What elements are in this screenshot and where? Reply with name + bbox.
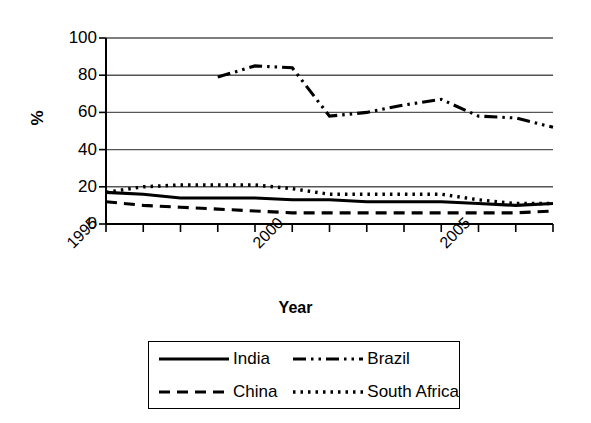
series-line-india (106, 192, 553, 205)
legend-line-sample-dashed (157, 385, 231, 399)
legend: IndiaBrazilChinaSouth Africa (148, 341, 460, 409)
y-tick-label-80: 80 (37, 66, 97, 83)
y-tick-label-20: 20 (37, 178, 97, 195)
legend-item-china[interactable]: China (149, 383, 283, 401)
y-tick-label-40: 40 (37, 141, 97, 158)
y-tick-label-60: 60 (37, 103, 97, 120)
y-tick-label-100: 100 (37, 29, 97, 46)
legend-item-south-africa[interactable]: South Africa (283, 383, 459, 401)
x-axis-title: Year (0, 299, 591, 317)
legend-item-brazil[interactable]: Brazil (283, 350, 459, 368)
legend-label: India (231, 350, 270, 368)
legend-label: South Africa (365, 383, 459, 401)
line-chart: % Year 020406080100 199520002005 IndiaBr… (0, 0, 591, 423)
legend-line-sample-dash-dot-dot (291, 352, 365, 366)
legend-item-india[interactable]: India (149, 350, 283, 368)
legend-line-sample-solid (157, 352, 231, 366)
legend-label: Brazil (365, 350, 410, 368)
legend-line-sample-dotted (291, 385, 365, 399)
legend-label: China (231, 383, 277, 401)
